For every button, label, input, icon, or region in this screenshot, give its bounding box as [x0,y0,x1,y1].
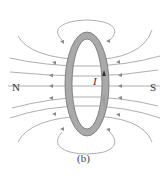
south-label: S [150,81,156,93]
figure-caption: (b) [0,152,167,164]
current-loop-ring [65,32,109,136]
north-label: N [12,81,20,93]
